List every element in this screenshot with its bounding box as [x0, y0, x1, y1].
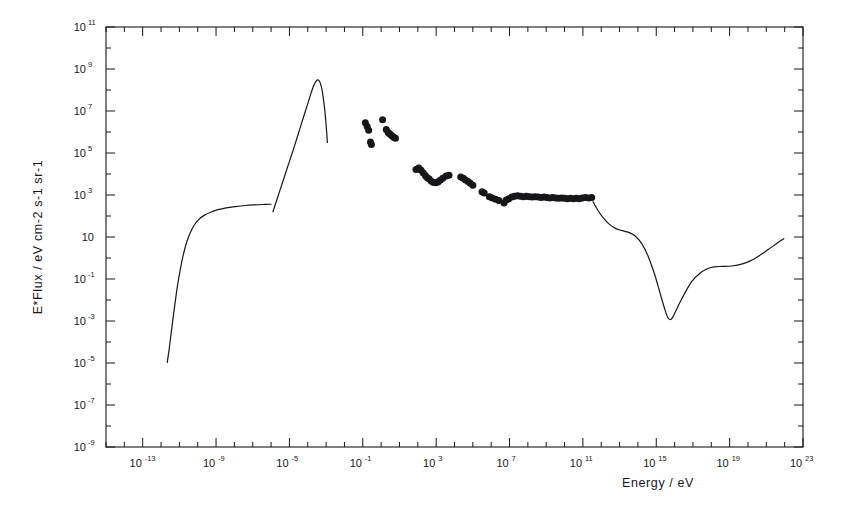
svg-text:11: 11 — [88, 18, 96, 27]
svg-text:10: 10 — [74, 273, 86, 285]
svg-text:10: 10 — [74, 441, 86, 453]
svg-text:-7: -7 — [88, 396, 95, 405]
y-axis-title: E*Flux / eV cm-2 s-1 sr-1 — [31, 160, 45, 315]
svg-text:10: 10 — [74, 21, 86, 33]
svg-text:10: 10 — [130, 457, 142, 469]
svg-text:7: 7 — [88, 102, 92, 111]
svg-text:11: 11 — [585, 454, 593, 463]
figure-background — [0, 0, 858, 512]
spectrum-figure: 10-1310-910-510-11031071011101510191023 … — [0, 0, 858, 512]
svg-text:10: 10 — [276, 457, 288, 469]
svg-text:-3: -3 — [88, 312, 95, 321]
y-tick-label: 10 — [82, 231, 94, 243]
data-point — [365, 127, 372, 134]
svg-text:-5: -5 — [88, 354, 95, 363]
svg-text:-13: -13 — [145, 454, 156, 463]
svg-text:-1: -1 — [365, 454, 372, 463]
svg-text:-9: -9 — [218, 454, 225, 463]
svg-text:23: 23 — [805, 454, 813, 463]
svg-text:10: 10 — [74, 315, 86, 327]
svg-text:10: 10 — [74, 147, 86, 159]
y-axis-title-text: E*Flux / eV cm-2 s-1 sr-1 — [31, 160, 45, 315]
svg-text:10: 10 — [74, 399, 86, 411]
svg-text:10: 10 — [496, 457, 508, 469]
x-axis-title-text: Energy / eV — [622, 476, 694, 490]
svg-text:-5: -5 — [291, 454, 298, 463]
spectrum-plot: 10-1310-910-510-11031071011101510191023 … — [0, 0, 858, 512]
svg-text:19: 19 — [732, 454, 740, 463]
svg-text:10: 10 — [203, 457, 215, 469]
svg-text:7: 7 — [512, 454, 516, 463]
data-point — [446, 172, 453, 179]
svg-text:10: 10 — [74, 105, 86, 117]
x-axis-title: Energy / eV — [622, 476, 694, 490]
data-point — [368, 141, 375, 148]
data-point — [588, 194, 595, 201]
svg-text:3: 3 — [438, 454, 442, 463]
svg-text:9: 9 — [88, 60, 92, 69]
svg-text:10: 10 — [570, 457, 582, 469]
svg-text:10: 10 — [74, 189, 86, 201]
svg-text:5: 5 — [88, 144, 92, 153]
svg-text:15: 15 — [658, 454, 666, 463]
svg-text:3: 3 — [88, 186, 92, 195]
svg-text:10: 10 — [74, 63, 86, 75]
data-point — [469, 182, 476, 189]
svg-text:-9: -9 — [88, 438, 95, 447]
svg-text:10: 10 — [74, 357, 86, 369]
svg-text:10: 10 — [643, 457, 655, 469]
svg-text:10: 10 — [717, 457, 729, 469]
svg-text:10: 10 — [350, 457, 362, 469]
svg-text:-1: -1 — [88, 270, 95, 279]
data-point — [379, 116, 386, 123]
svg-text:10: 10 — [423, 457, 435, 469]
svg-text:10: 10 — [82, 231, 94, 243]
data-point — [392, 135, 399, 142]
svg-text:10: 10 — [790, 457, 802, 469]
